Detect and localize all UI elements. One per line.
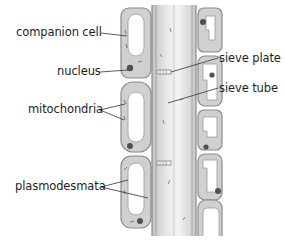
sieve-plate-lower (157, 161, 171, 165)
label-mitochondria: mitochondria (28, 103, 103, 116)
label-nucleus: nucleus (57, 65, 101, 78)
label-sieve-tube: sieve tube (219, 82, 278, 95)
phloem-diagram: companion cell nucleus mitochondria plas… (0, 0, 285, 246)
sieve-plate-upper (157, 70, 171, 74)
label-plasmodesmata: plasmodesmata (15, 180, 106, 193)
sieve-tube (152, 5, 196, 236)
label-companion-cell: companion cell (16, 26, 102, 39)
right-companion-cells (198, 8, 222, 236)
label-sieve-plate: sieve plate (219, 52, 281, 65)
